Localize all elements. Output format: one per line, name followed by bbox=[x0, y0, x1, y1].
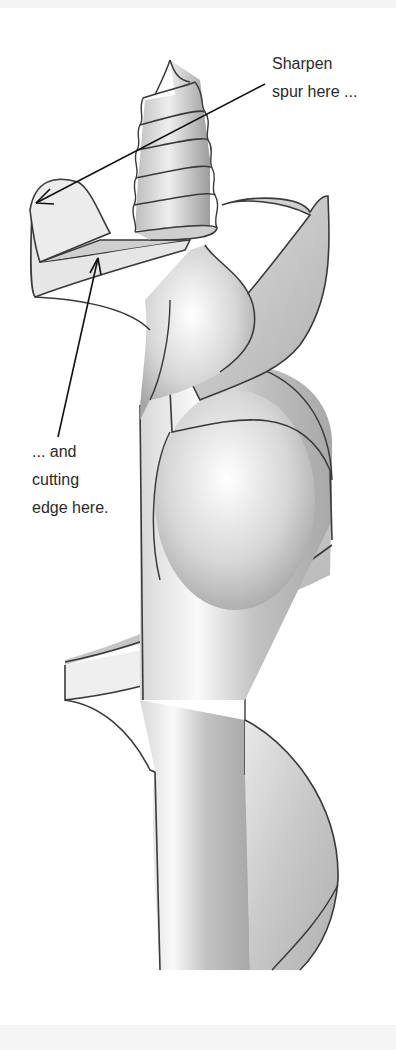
lower-shaft bbox=[140, 700, 338, 970]
flight-bulge bbox=[155, 390, 315, 610]
cutting-edge-annotation-line-2: cutting bbox=[32, 466, 109, 494]
cutting-edge-annotation: ... and cutting edge here. bbox=[32, 438, 109, 522]
spur-annotation-line-2: spur here ... bbox=[272, 78, 357, 106]
bottom-band bbox=[0, 1025, 396, 1050]
cutting-edge-annotation-line-3: edge here. bbox=[32, 494, 109, 522]
lead-screw bbox=[133, 60, 218, 240]
cutting-edge-annotation-line-1: ... and bbox=[32, 438, 109, 466]
middle-shaft bbox=[140, 365, 332, 700]
spur-annotation-line-1: Sharpen bbox=[272, 50, 357, 78]
spur-annotation: Sharpen spur here ... bbox=[272, 50, 357, 106]
auger-bit-illustration bbox=[0, 0, 396, 1050]
